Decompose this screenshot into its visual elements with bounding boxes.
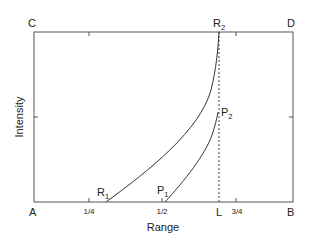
point-label-R2: R2 — [213, 17, 225, 32]
point-letter: P — [221, 106, 228, 118]
tick-label-half: 1/2 — [156, 207, 168, 216]
point-label-P1: P1 — [157, 184, 169, 199]
point-letter: P — [157, 184, 164, 196]
point-label-R1: R1 — [97, 186, 109, 201]
range-intensity-diagram: C D A B 1/4 1/2 L 3/4 Range Intensity R1… — [0, 0, 311, 239]
corner-label-d: D — [287, 17, 295, 29]
point-subscript: 1 — [164, 190, 168, 199]
plot-frame — [34, 32, 293, 202]
y-axis-label: Intensity — [13, 96, 25, 137]
tick-label-L: L — [216, 206, 222, 218]
tick-label-three-quarter: 3/4 — [231, 207, 243, 216]
curve-R — [106, 32, 219, 202]
point-subscript: 2 — [228, 112, 232, 121]
point-subscript: 2 — [221, 23, 225, 32]
point-label-P2: P2 — [221, 106, 233, 121]
corner-label-b: B — [287, 206, 294, 218]
x-axis-label: Range — [147, 221, 179, 233]
point-subscript: 1 — [105, 192, 109, 201]
tick-label-quarter: 1/4 — [83, 207, 95, 216]
corner-label-c: C — [28, 17, 36, 29]
point-letter: R — [213, 17, 221, 29]
point-letter: R — [97, 186, 105, 198]
corner-label-a: A — [29, 206, 37, 218]
